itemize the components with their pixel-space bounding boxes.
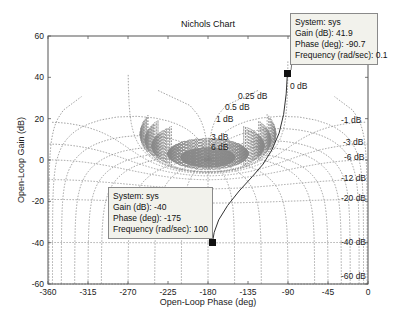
- svg-text:-60 dB: -60 dB: [341, 271, 366, 281]
- svg-text:-180: -180: [199, 287, 216, 297]
- svg-text:-45: -45: [322, 287, 335, 297]
- svg-text:-6 dB: -6 dB: [344, 152, 365, 162]
- svg-text:-90: -90: [282, 287, 295, 297]
- datatip-phase: Phase (deg): -90.7: [295, 39, 373, 50]
- svg-text:-3 dB: -3 dB: [343, 137, 364, 147]
- svg-text:1 dB: 1 dB: [216, 114, 234, 124]
- datatip-system: System: sys: [113, 191, 208, 202]
- chart-title: Nichols Chart: [181, 19, 236, 29]
- svg-text:0: 0: [366, 287, 371, 297]
- svg-text:-315: -315: [79, 287, 96, 297]
- svg-text:-40 dB: -40 dB: [341, 237, 366, 247]
- svg-text:-135: -135: [239, 287, 256, 297]
- svg-text:-20 dB: -20 dB: [341, 193, 366, 203]
- datatip-phase: Phase (deg): -175: [113, 213, 208, 224]
- datatip-gain: Gain (dB): 41.9: [295, 28, 373, 39]
- datatip-gain: Gain (dB): -40: [113, 202, 208, 213]
- y-axis-label: Open-Loop Gain (dB): [16, 117, 26, 203]
- svg-text:3 dB: 3 dB: [211, 132, 229, 142]
- svg-text:40: 40: [35, 72, 45, 82]
- datatip-marker-2[interactable]: [209, 239, 216, 246]
- svg-text:-225: -225: [159, 287, 176, 297]
- datatip-marker-1[interactable]: [284, 70, 291, 77]
- datatip-frequency: Frequency (rad/sec): 0.1: [295, 50, 373, 61]
- svg-text:6 dB: 6 dB: [211, 142, 229, 152]
- svg-text:0.25 dB: 0.25 dB: [238, 91, 268, 101]
- svg-text:20: 20: [35, 114, 45, 124]
- datatip-box-2[interactable]: System: sys Gain (dB): -40 Phase (deg): …: [108, 187, 213, 239]
- svg-text:-12 dB: -12 dB: [341, 173, 366, 183]
- svg-text:-1 dB: -1 dB: [341, 115, 362, 125]
- datatip-system: System: sys: [295, 17, 373, 28]
- svg-text:-40: -40: [32, 238, 45, 248]
- datatip-frequency: Frequency (rad/sec): 100: [113, 224, 208, 235]
- nichols-grid: [48, 60, 367, 284]
- svg-text:-20: -20: [32, 196, 45, 206]
- x-axis-label: Open-Loop Phase (deg): [160, 297, 257, 307]
- datatip-box-1[interactable]: System: sys Gain (dB): 41.9 Phase (deg):…: [290, 13, 378, 65]
- svg-text:0.5 dB: 0.5 dB: [225, 102, 250, 112]
- grid-labels: 0 dB 0.25 dB 0.5 dB 1 dB 3 dB 6 dB -1 dB…: [211, 81, 366, 281]
- svg-text:60: 60: [35, 31, 45, 41]
- svg-text:0 dB: 0 dB: [290, 81, 308, 91]
- svg-text:-270: -270: [119, 287, 136, 297]
- svg-text:-60: -60: [32, 279, 45, 289]
- svg-text:0: 0: [39, 155, 44, 165]
